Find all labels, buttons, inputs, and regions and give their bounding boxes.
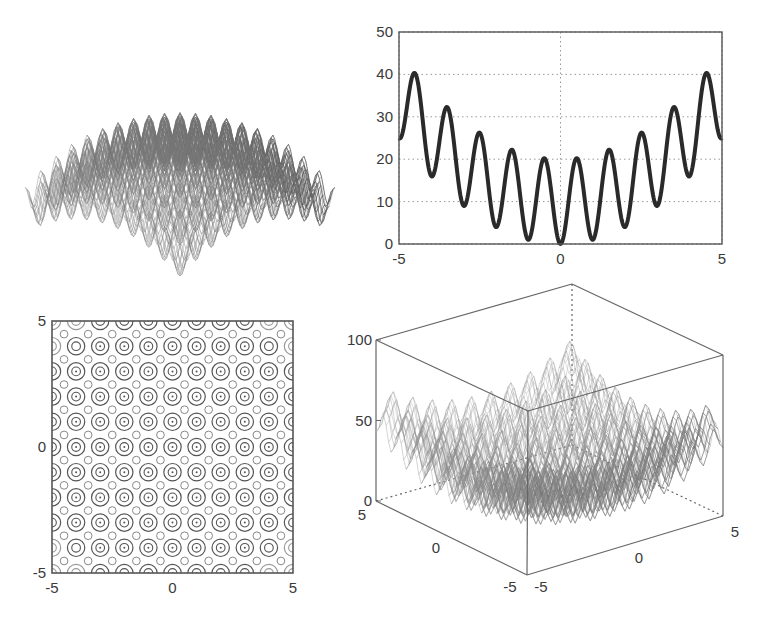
tick-label: 5 [358,506,366,523]
contour-plot-bottom-left: -505-505 [33,305,309,596]
tick-label: 40 [376,65,393,82]
tick-label: 0 [432,539,440,556]
contour-lines [43,305,309,582]
tick-label: -5 [392,250,405,267]
tick-label: -5 [534,578,547,595]
mesh-surface [376,341,723,525]
tick-label: 0 [168,579,176,596]
grid-lines [399,32,722,244]
tick-label: 50 [376,23,393,40]
tick-label: 30 [376,108,393,125]
tick-label: 5 [731,523,739,540]
tick-label: 0 [556,250,564,267]
tick-labels: 01020304050-505 [376,23,726,267]
tick-label: 20 [376,150,393,167]
tick-label: 0 [38,438,46,455]
surface-plot-top-left [25,113,335,276]
tick-label: -5 [33,564,46,581]
tick-label: 100 [347,331,372,348]
tick-label: -5 [45,579,58,596]
tick-label: 50 [355,412,372,429]
mesh-plot-bottom-right: 05010050-5-505 [347,284,739,595]
line-plot-top-right: 01020304050-505 [376,23,726,267]
tick-label: 5 [289,579,297,596]
tick-label: 5 [38,312,46,329]
tick-label: 5 [718,250,726,267]
tick-label: 0 [635,549,643,566]
tick-labels: 05010050-5-505 [347,331,739,595]
tick-label: 10 [376,193,393,210]
figure-canvas: 01020304050-505 -505-505 05010050-5-505 [0,0,762,623]
tick-label: -5 [503,578,516,595]
